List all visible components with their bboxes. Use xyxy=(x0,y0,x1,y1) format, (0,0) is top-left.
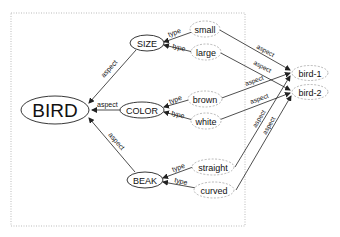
svg-text:straight: straight xyxy=(198,163,228,173)
svg-text:bird-1: bird-1 xyxy=(298,69,321,79)
node-small: small xyxy=(190,21,220,37)
edge-large-size: type xyxy=(164,42,193,53)
svg-text:type: type xyxy=(167,27,182,39)
svg-text:large: large xyxy=(196,48,216,58)
edge-brown-color: type xyxy=(164,94,192,107)
svg-text:aspect: aspect xyxy=(249,92,270,106)
node-bird-1: bird-1 xyxy=(292,66,328,81)
edge-large-bird2: aspect xyxy=(219,52,290,90)
node-beak: BEAK xyxy=(127,172,163,188)
edge-size-bird: aspect xyxy=(89,50,136,103)
node-white: white xyxy=(191,113,221,129)
svg-text:type: type xyxy=(171,42,186,53)
node-bird: BIRD xyxy=(21,96,89,124)
svg-text:SIZE: SIZE xyxy=(137,39,157,49)
svg-text:BIRD: BIRD xyxy=(32,100,77,121)
semantic-network-diagram: aspect aspect aspect type type type type… xyxy=(0,0,340,237)
node-straight: straight xyxy=(192,159,234,175)
svg-text:curved: curved xyxy=(200,186,227,196)
edge-color-bird: aspect xyxy=(92,101,121,110)
node-curved: curved xyxy=(194,182,234,198)
edge-small-size: type xyxy=(164,27,192,42)
edge-white-color: type xyxy=(164,109,193,120)
edge-label: aspect xyxy=(97,101,118,109)
svg-text:aspect: aspect xyxy=(252,59,273,75)
node-color: COLOR xyxy=(120,102,164,118)
node-large: large xyxy=(191,44,221,60)
svg-text:white: white xyxy=(194,117,216,127)
svg-text:type: type xyxy=(170,109,185,120)
svg-text:brown: brown xyxy=(193,95,218,105)
node-size: SIZE xyxy=(130,35,164,51)
edge-brown-bird1: aspect xyxy=(219,73,290,99)
svg-text:aspect: aspect xyxy=(255,43,276,59)
edge-straight-bird1: aspect xyxy=(235,76,290,167)
svg-text:COLOR: COLOR xyxy=(126,106,159,116)
svg-text:small: small xyxy=(194,25,215,35)
edge-beak-bird: aspect xyxy=(89,118,135,172)
edge-curved-beak: type xyxy=(163,176,196,188)
svg-text:bird-2: bird-2 xyxy=(298,88,321,98)
node-bird-2: bird-2 xyxy=(292,85,328,100)
edge-label: aspect xyxy=(100,59,120,80)
edge-straight-beak: type xyxy=(163,162,193,178)
svg-text:BEAK: BEAK xyxy=(133,176,157,186)
node-brown: brown xyxy=(188,91,222,107)
